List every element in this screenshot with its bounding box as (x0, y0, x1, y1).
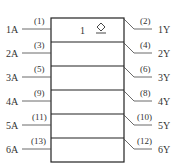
input-pin: (9) (34, 88, 45, 98)
logic-symbol-diagram: 1 1A (1) (2) 1Y 2A (3) (4) 2Y 3A (5) (6)… (0, 0, 180, 168)
output-label: 4Y (158, 96, 170, 107)
input-label: 1A (6, 24, 19, 35)
open-collector-diamond-icon (96, 23, 106, 33)
input-label: 2A (6, 48, 19, 59)
output-label: 2Y (158, 48, 170, 59)
output-pin: (8) (140, 88, 151, 98)
input-pin: (13) (31, 136, 46, 146)
input-pin: (11) (32, 112, 47, 122)
input-label: 6A (6, 144, 19, 155)
output-pin: (6) (140, 64, 151, 74)
output-label: 6Y (158, 144, 170, 155)
input-pin: (3) (34, 40, 45, 50)
output-pin: (10) (137, 112, 152, 122)
channel-2: 2A (3) (4) 2Y (6, 40, 170, 59)
input-pin: (1) (34, 16, 45, 26)
output-label: 1Y (158, 24, 170, 35)
output-pin: (2) (140, 16, 151, 26)
input-label: 5A (6, 120, 19, 131)
function-symbol: 1 (80, 25, 85, 36)
input-pin: (5) (34, 64, 45, 74)
channel-3: 3A (5) (6) 3Y (6, 64, 170, 83)
output-label: 3Y (158, 72, 170, 83)
channel-1: 1A (1) (2) 1Y (6, 16, 170, 35)
channel-6: 6A (13) (12) 6Y (6, 136, 170, 155)
input-label: 4A (6, 96, 19, 107)
channel-5: 5A (11) (10) 5Y (6, 112, 170, 131)
output-pin: (12) (137, 136, 152, 146)
channel-4: 4A (9) (8) 4Y (6, 88, 170, 107)
output-label: 5Y (158, 120, 170, 131)
output-pin: (4) (140, 40, 151, 50)
input-label: 3A (6, 72, 19, 83)
